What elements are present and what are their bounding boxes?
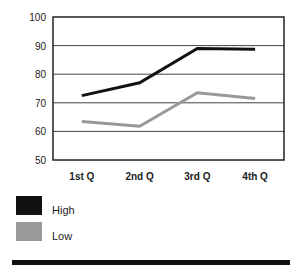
series-lines	[82, 48, 255, 126]
y-tick-label: 70	[35, 98, 47, 109]
x-tick-label: 1st Q	[69, 171, 94, 182]
y-tick-label: 80	[35, 69, 47, 80]
y-tick-label: 90	[35, 41, 47, 52]
plot-frame	[53, 17, 284, 160]
y-tick-label: 100	[29, 12, 46, 23]
series-line-high	[82, 48, 255, 95]
legend-label-high: High	[52, 204, 75, 216]
y-tick-label: 60	[35, 126, 47, 137]
line-chart: 5060708090100 1st Q2nd Q3rd Q4th Q	[0, 0, 301, 200]
series-line-low	[82, 93, 255, 126]
x-tick-label: 2nd Q	[125, 171, 154, 182]
x-axis-ticks: 1st Q2nd Q3rd Q4th Q	[69, 171, 268, 182]
legend-swatch-low	[16, 222, 42, 241]
y-axis-ticks: 5060708090100	[29, 12, 46, 166]
bottom-divider	[12, 260, 290, 265]
legend-label-low: Low	[52, 230, 72, 242]
legend-swatch-high	[16, 196, 42, 215]
x-tick-label: 4th Q	[242, 171, 268, 182]
gridlines	[53, 46, 284, 132]
y-tick-label: 50	[35, 155, 47, 166]
x-tick-label: 3rd Q	[184, 171, 210, 182]
